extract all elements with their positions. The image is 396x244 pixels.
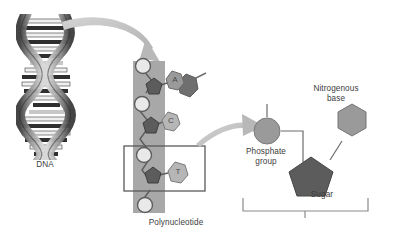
dna-double-helix [20,14,71,162]
base-letter-t: T [172,167,184,176]
base-letter-c: C [165,116,177,125]
arrow-helix-to-polynucleotide [62,17,160,62]
dna-structure-figure: DNA Polynucleotide Nitrogenous base Phos… [0,0,396,244]
label-dna: DNA [16,160,74,170]
chain-base-hexagons [162,71,206,183]
nucleotide-bracket [243,198,368,218]
label-phosphate-group: Phosphate group [232,147,300,167]
label-nitrogenous-base: Nitrogenous base [300,84,372,104]
polynucleotide-chain [124,59,206,214]
label-sugar: Sugar [296,190,348,200]
phosphate-circle [254,118,280,144]
label-polynucleotide: Polynucleotide [124,218,228,228]
base-letter-a: A [169,75,181,84]
nitrogenous-base-hexagon [338,104,366,136]
figure-canvas [0,0,396,244]
